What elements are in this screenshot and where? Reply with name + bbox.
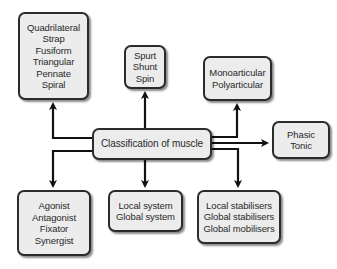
node-line: Fusiform [35, 45, 71, 57]
node-line: Fixator [40, 223, 68, 235]
node-joints: Monoarticular Polyarticular [203, 56, 272, 101]
node-system: Local system Global system [108, 190, 183, 232]
node-line: Pennate [36, 68, 71, 80]
node-shape: Quadrilateral Strap Fusiform Triangular … [18, 12, 89, 100]
node-line: Phasic [287, 129, 315, 141]
node-line: Global system [116, 211, 175, 223]
center-label: Classification of muscle [101, 138, 203, 150]
node-line: Triangular [33, 56, 74, 68]
center-node-classification: Classification of muscle [92, 128, 212, 160]
node-line: Spin [136, 73, 155, 85]
node-line: Spurt [134, 50, 156, 62]
node-line: Local stabilisers [206, 200, 272, 212]
node-line: Tonic [290, 140, 312, 152]
node-line: Local system [118, 200, 172, 212]
node-function: Local stabilisers Global stabilisers Glo… [197, 190, 281, 244]
node-line: Strap [42, 33, 64, 45]
node-line: Agonist [39, 200, 70, 212]
node-line: Polyarticular [212, 79, 263, 91]
node-line: Antagonist [32, 212, 76, 224]
node-action: Spurt Shunt Spin [124, 45, 166, 89]
node-line: Shunt [133, 61, 157, 73]
node-line: Global mobilisers [203, 223, 274, 235]
node-line: Spiral [42, 79, 66, 91]
node-line: Synergist [35, 235, 74, 247]
node-role: Agonist Antagonist Fixator Synergist [17, 190, 91, 256]
node-line: Monoarticular [209, 67, 265, 79]
muscle-classification-diagram: Classification of muscle Quadrilateral S… [0, 0, 337, 269]
node-line: Global stabilisers [204, 211, 275, 223]
node-fibre: Phasic Tonic [272, 121, 330, 159]
node-line: Quadrilateral [27, 22, 80, 34]
